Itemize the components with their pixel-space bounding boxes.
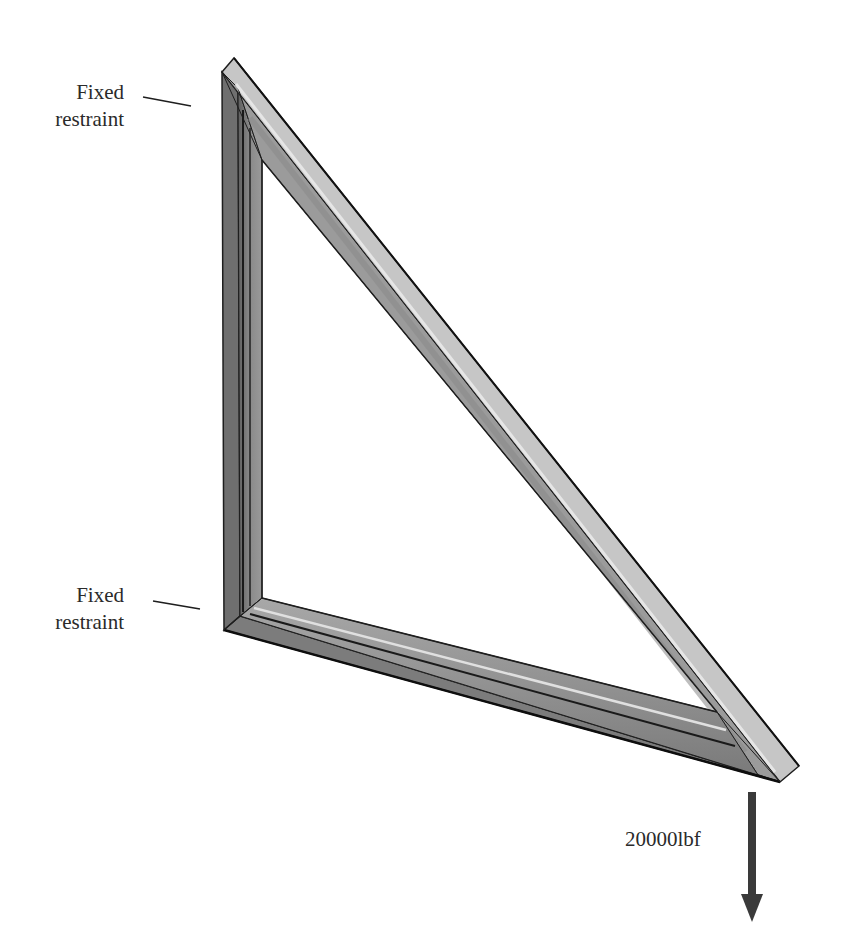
top-fixed-restraint-label: Fixed restraint [20, 79, 124, 133]
load-arrow-shaft [748, 792, 756, 896]
load-magnitude-label: 20000lbf [625, 827, 701, 852]
vertical-member [222, 72, 262, 630]
bottom-restraint-leader-line [153, 601, 200, 609]
vertical-member-front-face [222, 72, 240, 630]
top-restraint-leader-line [143, 97, 191, 106]
bottom-restraint-label-line1: Fixed [20, 582, 124, 609]
top-restraint-label-line2: restraint [20, 106, 124, 133]
top-restraint-label-line1: Fixed [20, 79, 124, 106]
bottom-restraint-label-line2: restraint [20, 609, 124, 636]
bottom-fixed-restraint-label: Fixed restraint [20, 582, 124, 636]
diagonal-member-outer-edge [234, 58, 799, 766]
load-arrow-icon [741, 792, 763, 922]
truss-frame-diagram [0, 0, 846, 949]
load-arrow-head [741, 894, 763, 922]
